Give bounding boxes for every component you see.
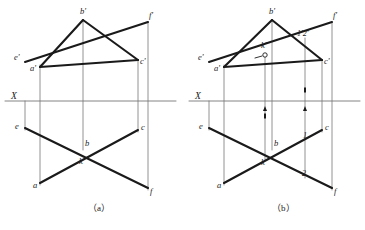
label-a-point: a: [33, 180, 37, 190]
label-e-point: e: [15, 121, 19, 131]
panel-caption: （b）: [272, 203, 295, 213]
label-point-1: 1: [303, 131, 307, 140]
seg-ef: [25, 128, 148, 188]
label-f-point: f: [334, 186, 338, 196]
panel-caption: （a）: [88, 203, 110, 213]
label-k-point: k: [261, 157, 265, 167]
label-c-point: c: [141, 122, 145, 132]
label-c-point: c: [325, 122, 329, 132]
label-b-point: b: [85, 138, 89, 148]
descriptive-geometry-drawing: Xa'b'c'e'f'abcefk（a）Xa'b'c'e'f'k'1'2'abc…: [0, 0, 365, 230]
ground-line-label: X: [194, 91, 202, 101]
label-f-point: f: [150, 186, 154, 196]
label-e-point: e: [199, 121, 203, 131]
arrow-up-k: [263, 106, 267, 111]
seg-ef-prime: [209, 22, 332, 62]
label-k-prime: k': [261, 40, 267, 50]
label-f-prime: f': [149, 10, 153, 20]
label-b-prime: b': [269, 6, 275, 16]
figure-root: Xa'b'c'e'f'abcefk（a）Xa'b'c'e'f'k'1'2'abc…: [0, 0, 365, 230]
seg-ef-prime: [25, 22, 148, 62]
seg-ef: [209, 128, 332, 188]
label-point-12-prime: 1'2': [297, 29, 309, 38]
dot-12-upper: [304, 88, 306, 93]
seg-ac-prime: [40, 60, 138, 67]
seg-ac-prime: [224, 60, 322, 67]
label-a-point: a: [217, 180, 221, 190]
arrow-up-12: [303, 106, 307, 111]
label-f-prime: f': [333, 10, 337, 20]
k-prime-circle: [263, 53, 267, 57]
label-a-prime: a': [30, 63, 36, 73]
label-b-prime: b': [80, 6, 86, 16]
ground-line-label: X: [10, 91, 18, 101]
label-a-prime: a': [214, 63, 220, 73]
dot-k-lower: [264, 114, 266, 119]
label-c-prime: c': [324, 56, 330, 66]
panel-b: Xa'b'c'e'f'k'1'2'abcefk12（b）: [189, 6, 360, 213]
label-e-prime: e': [198, 52, 204, 62]
seg-ab-prime: [40, 20, 83, 67]
label-b-point: b: [274, 138, 278, 148]
panel-a: Xa'b'c'e'f'abcefk（a）: [5, 6, 176, 213]
label-point-2: 2: [302, 169, 306, 178]
label-k-point: k: [79, 156, 83, 166]
label-e-prime: e': [14, 52, 20, 62]
label-c-prime: c': [140, 56, 146, 66]
k-prime-leader: [255, 56, 262, 58]
